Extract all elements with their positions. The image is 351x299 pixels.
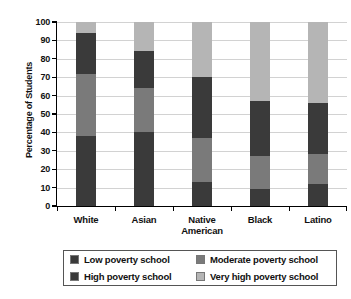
y-axis-tick-label: 20 — [40, 164, 50, 174]
x-axis-tick — [115, 206, 116, 211]
y-axis-tick — [52, 21, 57, 22]
bar-segment-very-high-poverty-school[interactable] — [76, 22, 96, 33]
bar-segment-moderate-poverty-school[interactable] — [134, 88, 154, 132]
x-axis-tick — [289, 206, 290, 211]
bar-segment-moderate-poverty-school[interactable] — [308, 154, 328, 183]
bar-segment-high-poverty-school[interactable] — [134, 51, 154, 88]
bar-segment-high-poverty-school[interactable] — [76, 33, 96, 73]
bar-segment-high-poverty-school[interactable] — [250, 101, 270, 156]
x-axis-label-latino: Latino — [304, 214, 331, 225]
y-axis-tick-label: 10 — [40, 183, 50, 193]
legend-item-high-poverty-school: High poverty school — [70, 271, 196, 282]
y-axis-tick — [52, 150, 57, 151]
chart-legend: Low poverty school Moderate poverty scho… — [63, 250, 337, 286]
bar-segment-very-high-poverty-school[interactable] — [134, 22, 154, 51]
legend-item-moderate-poverty-school: Moderate poverty school — [196, 254, 330, 265]
x-axis-tick — [173, 206, 174, 211]
bar-latino[interactable] — [308, 22, 328, 206]
legend-label-high-poverty-school: High poverty school — [84, 271, 172, 282]
bar-segment-high-poverty-school[interactable] — [308, 103, 328, 155]
y-axis-tick — [52, 113, 57, 114]
bar-segment-moderate-poverty-school[interactable] — [192, 138, 212, 182]
legend-swatch-low-poverty-school — [70, 255, 79, 264]
bar-segment-very-high-poverty-school[interactable] — [308, 22, 328, 103]
y-axis-tick-label: 80 — [40, 54, 50, 64]
y-axis-title: Percentage of Students — [24, 25, 34, 195]
x-axis-label-asian: Asian — [132, 214, 157, 225]
y-axis-tick-label: 50 — [40, 109, 50, 119]
x-axis-label-black: Black — [248, 214, 272, 225]
y-axis-tick — [52, 132, 57, 133]
bar-segment-low-poverty-school[interactable] — [308, 184, 328, 206]
legend-label-low-poverty-school: Low poverty school — [84, 254, 170, 265]
x-axis-tick — [231, 206, 232, 211]
legend-label-very-high-poverty-school: Very high poverty school — [210, 271, 318, 282]
bar-segment-very-high-poverty-school[interactable] — [250, 22, 270, 101]
bar-black[interactable] — [250, 22, 270, 206]
x-axis-tick — [57, 206, 58, 211]
x-axis-tick — [346, 206, 347, 211]
bar-segment-low-poverty-school[interactable] — [76, 136, 96, 206]
bar-white[interactable] — [76, 22, 96, 206]
y-axis-tick — [52, 95, 57, 96]
y-axis-tick-label: 0 — [45, 201, 50, 211]
y-axis-tick — [52, 187, 57, 188]
bar-segment-very-high-poverty-school[interactable] — [192, 22, 212, 77]
legend-label-moderate-poverty-school: Moderate poverty school — [210, 254, 318, 265]
legend-swatch-moderate-poverty-school — [196, 255, 205, 264]
legend-swatch-high-poverty-school — [70, 272, 79, 281]
bar-segment-low-poverty-school[interactable] — [192, 182, 212, 206]
y-axis-tick — [52, 77, 57, 78]
y-axis-tick-label: 30 — [40, 146, 50, 156]
y-axis-tick — [52, 40, 57, 41]
legend-item-very-high-poverty-school: Very high poverty school — [196, 271, 330, 282]
bar-segment-high-poverty-school[interactable] — [192, 77, 212, 138]
bar-native-american[interactable] — [192, 22, 212, 206]
bar-asian[interactable] — [134, 22, 154, 206]
legend-item-low-poverty-school: Low poverty school — [70, 254, 196, 265]
legend-swatch-very-high-poverty-school — [196, 272, 205, 281]
y-axis-tick-label: 40 — [40, 127, 50, 137]
y-axis-tick — [52, 58, 57, 59]
y-axis-tick-label: 90 — [40, 35, 50, 45]
bar-segment-low-poverty-school[interactable] — [250, 189, 270, 206]
bar-segment-moderate-poverty-school[interactable] — [250, 156, 270, 189]
plot-area: 0102030405060708090100WhiteAsianNative A… — [56, 22, 347, 207]
x-axis-label-native-american: Native American — [181, 214, 223, 236]
bar-segment-low-poverty-school[interactable] — [134, 132, 154, 206]
bar-segment-moderate-poverty-school[interactable] — [76, 74, 96, 137]
y-axis-tick-label: 100 — [36, 17, 50, 27]
x-axis-label-white: White — [74, 214, 99, 225]
y-axis-tick-label: 60 — [40, 91, 50, 101]
chart-figure: Percentage of Students 01020304050607080… — [0, 0, 351, 299]
y-axis-tick-label: 70 — [40, 72, 50, 82]
y-axis-tick — [52, 169, 57, 170]
